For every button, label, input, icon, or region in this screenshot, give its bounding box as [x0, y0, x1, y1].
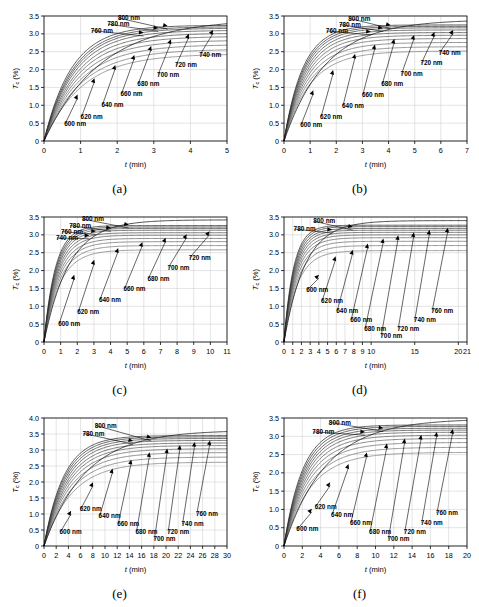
y-tick-label: 0.5: [269, 320, 279, 329]
series-label-780-nm: 780 nm: [82, 430, 104, 437]
x-tick-label: 0: [282, 347, 286, 356]
x-axis-label: t (min): [365, 160, 387, 169]
x-tick-label: 4: [319, 551, 323, 560]
x-axis-label: t (min): [365, 361, 387, 370]
x-tick-label: 8: [175, 347, 179, 356]
panel-caption-a: (a): [0, 181, 239, 197]
x-tick-label: 1: [79, 146, 83, 155]
x-tick-label: 4: [66, 551, 70, 560]
y-tick-label: 1.5: [269, 83, 279, 92]
y-axis-label: Tc (%): [11, 471, 20, 493]
x-axis-label: t (min): [365, 565, 387, 574]
x-tick-label: 10: [372, 551, 380, 560]
x-tick-label: 14: [408, 551, 416, 560]
x-tick-label: 1: [291, 347, 295, 356]
plot-svg: 600 nm620 nm640 nm660 nm680 nm700 nm720 …: [0, 205, 239, 382]
x-tick-label: 7: [158, 347, 162, 356]
series-label-680-nm: 680 nm: [369, 528, 391, 535]
x-axis: 012345678910152021: [282, 342, 471, 356]
series-label-700-nm: 700 nm: [387, 535, 409, 542]
x-tick-label: 16: [426, 551, 434, 560]
plot-svg: 600 nm620 nm640 nm660 nm680 nm700 nm720 …: [0, 406, 239, 586]
x-tick-label: 2: [300, 551, 304, 560]
y-tick-label: 2.5: [269, 47, 279, 56]
series-label-680-nm: 680 nm: [137, 80, 159, 87]
series-label-640-nm: 640 nm: [331, 511, 353, 518]
x-tick-label: 20: [162, 551, 170, 560]
y-tick-label: 0: [35, 542, 39, 551]
x-tick-label: 0: [282, 146, 286, 155]
series-label-660-nm: 660 nm: [120, 90, 142, 97]
series-label-740-nm: 740 nm: [56, 234, 78, 241]
y-tick-label: 2.5: [29, 248, 39, 257]
y-tick-label: 3.0: [269, 432, 279, 441]
x-tick-label: 4: [188, 146, 192, 155]
y-tick-label: 1.5: [29, 494, 39, 503]
y-tick-label: 0.5: [29, 526, 39, 535]
series-label-760-nm: 760 nm: [436, 509, 458, 516]
y-tick-label: 3.0: [269, 29, 279, 38]
x-tick-label: 6: [337, 551, 341, 560]
x-tick-label: 3: [92, 347, 96, 356]
x-tick-label: 0: [282, 551, 286, 560]
x-tick-label: 30: [223, 551, 231, 560]
x-tick-label: 5: [326, 347, 330, 356]
series-label-800-nm: 800 nm: [118, 14, 140, 21]
chart-panel-b: 600 nm620 nm640 nm660 nm680 nm700 nm720 …: [240, 4, 479, 181]
series-label-600-nm: 600 nm: [60, 528, 82, 535]
series-label-660-nm: 660 nm: [350, 316, 372, 323]
x-tick-label: 7: [343, 347, 347, 356]
series-label-680-nm: 680 nm: [136, 528, 158, 535]
series-label-740-nm: 740 nm: [421, 519, 443, 526]
y-axis-label: Tc (%): [251, 268, 260, 290]
y-tick-label: 0.5: [29, 320, 39, 329]
x-tick-label: 14: [125, 551, 133, 560]
x-tick-label: 2: [299, 347, 303, 356]
x-tick-label: 3: [308, 347, 312, 356]
x-tick-label: 21: [463, 347, 471, 356]
series-label-760-nm: 760 nm: [326, 27, 348, 34]
series-label-740-nm: 740 nm: [182, 520, 204, 527]
x-tick-label: 10: [206, 347, 214, 356]
x-tick-label: 2: [115, 146, 119, 155]
panel-caption-f: (f): [240, 586, 479, 602]
y-tick-label: 0: [35, 137, 39, 146]
series-label-720-nm: 720 nm: [167, 528, 189, 535]
x-tick-label: 3: [152, 146, 156, 155]
x-tick-label: 18: [445, 551, 453, 560]
x-tick-label: 10: [101, 551, 109, 560]
x-axis: 012345: [42, 141, 229, 155]
y-tick-label: 2.5: [269, 248, 279, 257]
series-label-780-nm: 780 nm: [107, 20, 129, 27]
series-label-760-nm: 760 nm: [61, 228, 83, 235]
y-axis: 00.51.01.52.02.53.03.5: [29, 12, 44, 146]
x-tick-label: 2: [75, 347, 79, 356]
x-tick-label: 20: [454, 347, 462, 356]
x-tick-label: 12: [113, 551, 121, 560]
y-axis-label: Tc (%): [11, 268, 20, 290]
series-label-780-nm: 780 nm: [294, 225, 316, 232]
x-tick-label: 6: [439, 146, 443, 155]
series-label-600-nm: 600 nm: [296, 525, 318, 532]
series-label-760-nm: 760 nm: [431, 307, 453, 314]
series-label-660-nm: 660 nm: [117, 520, 139, 527]
x-tick-label: 4: [387, 146, 391, 155]
x-tick-label: 6: [79, 551, 83, 560]
series-label-600-nm: 600 nm: [64, 120, 86, 127]
series-label-720-nm: 720 nm: [397, 325, 419, 332]
y-axis-label: Tc (%): [251, 67, 260, 89]
series-label-660-nm: 660 nm: [362, 91, 384, 98]
y-tick-label: 3.5: [29, 12, 39, 21]
x-tick-label: 16: [138, 551, 146, 560]
x-tick-label: 2: [334, 146, 338, 155]
y-tick-label: 1.5: [269, 487, 279, 496]
y-axis: 00.51.01.52.02.53.03.5: [29, 213, 44, 347]
y-tick-label: 0: [275, 137, 279, 146]
x-tick-label: 2: [54, 551, 58, 560]
x-tick-label: 28: [211, 551, 219, 560]
series-label-720-nm: 720 nm: [420, 59, 442, 66]
series-label-760-nm: 760 nm: [196, 510, 218, 517]
y-tick-label: 3.5: [29, 430, 39, 439]
chart-panel-e: 600 nm620 nm640 nm660 nm680 nm700 nm720 …: [0, 406, 239, 586]
x-tick-label: 8: [352, 347, 356, 356]
